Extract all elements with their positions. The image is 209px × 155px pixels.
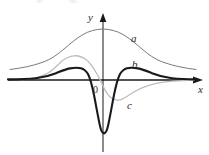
curve-b-label: b (132, 59, 138, 70)
y-axis-label: y (88, 12, 93, 23)
figure-canvas: y x 0 a b c (0, 0, 209, 155)
y-axis-arrowhead (100, 13, 107, 22)
curve-b-path (8, 68, 196, 134)
curve-c-label: c (127, 100, 132, 111)
plot-area (0, 0, 209, 155)
origin-label: 0 (93, 85, 98, 95)
curve-a-label: a (131, 33, 137, 44)
x-axis-label: x (198, 84, 203, 95)
